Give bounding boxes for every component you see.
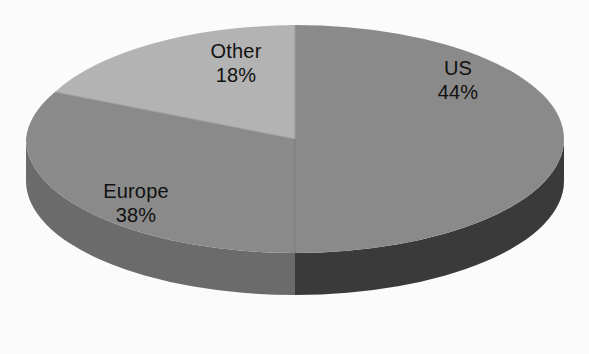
pie-label-us-value: 44% (398, 80, 518, 104)
pie-label-other: Other 18% (171, 39, 301, 87)
pie-label-other-name: Other (171, 39, 301, 63)
pie-label-other-value: 18% (171, 63, 301, 87)
pie-chart-figure: US 44% Europe 38% Other 18% (0, 0, 589, 354)
pie-label-us: US 44% (398, 56, 518, 104)
pie-label-europe-name: Europe (66, 179, 206, 203)
pie-label-europe: Europe 38% (66, 179, 206, 227)
pie-label-us-name: US (398, 56, 518, 80)
pie-label-europe-value: 38% (66, 203, 206, 227)
